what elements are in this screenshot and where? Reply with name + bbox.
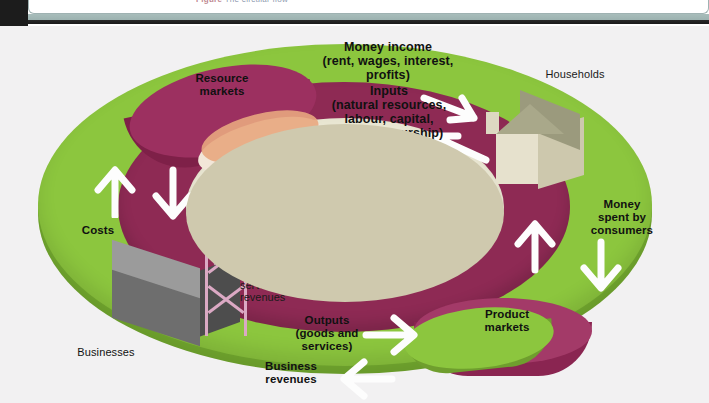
centre-plate-rim	[186, 124, 504, 302]
label-money-income: Money income (rent, wages, interest, pro…	[298, 40, 478, 82]
money-spent-down-arrow	[578, 238, 624, 296]
label-outputs: Outputs (goods and services)	[272, 314, 382, 353]
label-business-revenues: Business revenues	[236, 360, 346, 386]
screenshot-root: Figure The circular flow	[0, 0, 709, 403]
header-frame	[28, 0, 709, 14]
figure-caption-lead: Figure	[196, 0, 222, 4]
header-divider-bar	[0, 14, 709, 24]
label-product-markets: Product markets	[462, 308, 552, 334]
circular-flow-diagram: Money income (rent, wages, interest, pro…	[0, 26, 709, 403]
house-front-wall	[496, 132, 538, 184]
figure-caption-text: The circular flow	[225, 0, 288, 4]
costs-up-arrow	[92, 162, 138, 218]
label-money-spent-by-consumers: Money spent by consumers	[574, 198, 670, 237]
label-businesses: Businesses	[58, 346, 154, 358]
figure-caption: Figure The circular flow	[196, 0, 288, 4]
label-costs: Costs	[60, 224, 136, 237]
page-corner-block	[0, 0, 28, 26]
label-resource-markets: Resource markets	[172, 72, 272, 98]
house-roof-icon	[496, 104, 564, 134]
revenues-up-arrow	[512, 216, 558, 274]
label-households: Households	[520, 68, 630, 80]
